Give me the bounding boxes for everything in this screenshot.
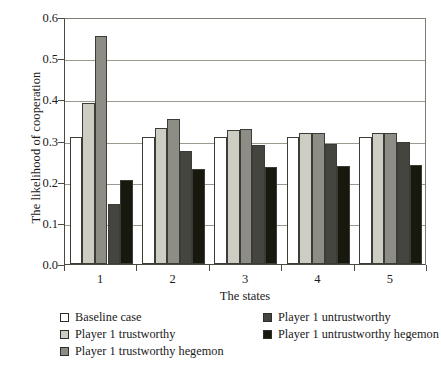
bar	[82, 103, 95, 264]
bar-group	[210, 19, 282, 264]
bar	[372, 133, 385, 264]
legend-swatch-icon	[60, 330, 69, 339]
x-axis-tick-mark	[354, 265, 355, 271]
bar-group	[137, 19, 209, 264]
bar	[384, 133, 397, 264]
bar	[287, 137, 300, 264]
y-axis-tick-label: 0.5	[18, 53, 58, 66]
legend-column-right: Player 1 untrustworthyPlayer 1 untrustwo…	[263, 309, 441, 343]
y-axis-tick-label: 0.6	[18, 12, 58, 25]
bar	[227, 130, 240, 264]
legend-swatch-icon	[60, 347, 69, 356]
legend-swatch-icon	[263, 313, 272, 322]
x-axis-tick-mark	[281, 265, 282, 271]
x-axis-tick-mark	[136, 265, 137, 271]
x-axis-title: The states	[64, 289, 426, 304]
bar	[410, 165, 423, 264]
y-axis-tick-mark	[58, 224, 64, 225]
bar	[240, 129, 253, 264]
bar	[192, 169, 205, 264]
bar	[180, 151, 193, 264]
x-axis-tick-label: 2	[153, 272, 193, 287]
y-axis-tick-label: 0.3	[18, 135, 58, 148]
legend-swatch-icon	[263, 330, 272, 339]
legend-label: Player 1 trustworthy hegemon	[75, 345, 224, 357]
bar	[325, 144, 338, 264]
bar	[312, 133, 325, 264]
x-axis-tick-mark	[209, 265, 210, 271]
bar	[95, 36, 108, 264]
legend-item: Player 1 trustworthy	[60, 326, 260, 343]
bar	[155, 128, 168, 264]
x-axis-tick-mark	[64, 265, 65, 271]
y-axis-tick-label: 0.4	[18, 94, 58, 107]
x-axis-tick-label: 5	[370, 272, 410, 287]
bar-group	[355, 19, 427, 264]
legend-swatch-icon	[60, 313, 69, 322]
bar	[167, 119, 180, 264]
y-axis-tick-label: 0.0	[18, 259, 58, 272]
y-axis-tick-label: 0.2	[18, 176, 58, 189]
y-axis-tick-mark	[58, 142, 64, 143]
legend-item: Player 1 untrustworthy hegemon	[263, 326, 441, 343]
legend-label: Player 1 trustworthy	[75, 328, 175, 340]
bar	[214, 137, 227, 264]
y-axis-ticks: 0.00.10.20.30.40.50.6	[0, 0, 58, 366]
y-axis-tick-mark	[58, 18, 64, 19]
y-axis-tick-mark	[58, 183, 64, 184]
legend-label: Player 1 untrustworthy hegemon	[278, 328, 439, 340]
legend-label: Player 1 untrustworthy	[278, 311, 391, 323]
legend-item: Player 1 trustworthy hegemon	[60, 343, 260, 360]
x-axis-tick-label: 3	[225, 272, 265, 287]
bar-group	[65, 19, 137, 264]
y-axis-tick-label: 0.1	[18, 218, 58, 231]
legend-column-left: Baseline casePlayer 1 trustworthyPlayer …	[60, 309, 260, 360]
bar	[252, 145, 265, 264]
legend-item: Baseline case	[60, 309, 260, 326]
legend-label: Baseline case	[75, 311, 142, 323]
chart-legend: Baseline casePlayer 1 trustworthyPlayer …	[60, 309, 440, 361]
bar	[70, 137, 83, 264]
x-axis-tick-label: 1	[80, 272, 120, 287]
x-axis-tick-label: 4	[297, 272, 337, 287]
y-axis-tick-mark	[58, 100, 64, 101]
bar	[397, 142, 410, 264]
bar	[120, 180, 133, 264]
legend-item: Player 1 untrustworthy	[263, 309, 441, 326]
bar	[299, 133, 312, 264]
y-axis-tick-mark	[58, 59, 64, 60]
bar	[359, 137, 372, 264]
bar	[265, 167, 278, 264]
x-axis-tick-mark	[426, 265, 427, 271]
bar-group	[282, 19, 354, 264]
plot-area	[64, 18, 426, 265]
bar-chart-figure: The likelihood of cooperation 0.00.10.20…	[0, 0, 441, 366]
bar	[142, 137, 155, 264]
bar	[337, 166, 350, 264]
bar	[108, 204, 121, 265]
